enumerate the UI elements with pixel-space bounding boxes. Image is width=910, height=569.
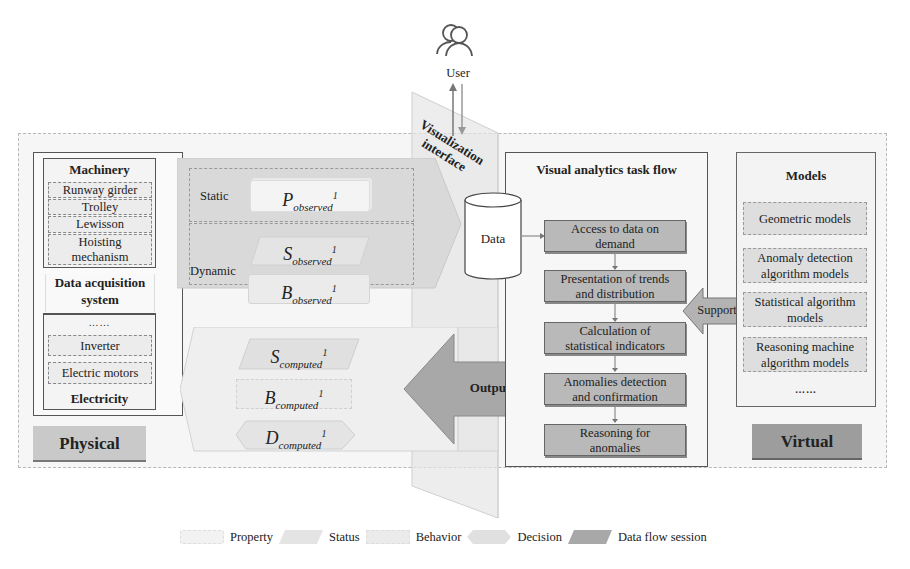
legend-label-property: Property xyxy=(230,530,273,545)
models-ellipsis: …… xyxy=(736,384,876,395)
electricity-item-electric-motors: Electric motors xyxy=(48,362,152,384)
static-label: Static xyxy=(200,189,228,204)
model-reasoning-machine: Reasoning machine algorithm models xyxy=(743,337,867,372)
step-reasoning-anomalies: Reasoning for anomalies xyxy=(544,424,686,456)
legend-swatch-behavior xyxy=(366,530,410,544)
b-computed-behavior: Bcomputed1 xyxy=(236,379,352,409)
d-computed-decision: Dcomputed1 xyxy=(236,420,356,450)
dynamic-label: Dynamic xyxy=(190,264,236,279)
model-anomaly-detection: Anomaly detection algorithm models xyxy=(743,248,867,283)
user-label: User xyxy=(438,66,478,81)
users-icon xyxy=(433,22,477,60)
legend-swatch-property xyxy=(180,530,224,544)
b-observed-behavior: Bobserved1 xyxy=(248,274,370,304)
data-acquisition-system: Data acquisition system xyxy=(45,274,155,312)
legend-swatch-data-flow xyxy=(568,530,612,544)
legend-label-decision: Decision xyxy=(517,530,561,545)
legend: Property Status Behavior Decision Data f… xyxy=(180,528,707,546)
p-observed-property: Pobserved1 xyxy=(250,180,370,212)
legend-swatch-decision xyxy=(467,530,511,544)
model-statistical-algorithm: Statistical algorithm models xyxy=(743,292,867,327)
virtual-label: Virtual xyxy=(752,424,862,460)
machinery-item-lewisson: Lewisson xyxy=(48,216,152,233)
machinery-title: Machinery xyxy=(44,162,155,178)
electricity-ellipsis: …… xyxy=(44,317,155,328)
step-calculation-indicators: Calculation of statistical indicators xyxy=(544,322,686,354)
legend-label-behavior: Behavior xyxy=(416,530,462,545)
machinery-item-runway-girder: Runway girder xyxy=(48,182,152,198)
s-observed-status: Sobserved1 xyxy=(250,236,370,266)
step-presentation-trends: Presentation of trends and distribution xyxy=(544,270,686,302)
data-store: Data xyxy=(464,192,522,280)
support-arrow: Support xyxy=(683,288,743,334)
step-access-data: Access to data on demand xyxy=(544,220,686,252)
step-anomalies-detection: Anomalies detection and confirmation xyxy=(544,373,686,405)
machinery-item-hoisting-mechanism: Hoisting mechanism xyxy=(48,234,152,265)
electricity-title: Electricity xyxy=(44,391,155,407)
model-geometric: Geometric models xyxy=(743,202,867,235)
legend-label-status: Status xyxy=(329,530,360,545)
legend-swatch-status xyxy=(279,530,323,544)
legend-label-data-flow: Data flow session xyxy=(618,530,707,545)
machinery-item-trolley: Trolley xyxy=(48,199,152,215)
user-interaction-arrows xyxy=(446,82,470,138)
electricity-item-inverter: Inverter xyxy=(48,335,152,356)
task-flow-title: Visual analytics task flow xyxy=(505,162,708,178)
physical-label: Physical xyxy=(33,426,146,462)
s-computed-status: Scomputed1 xyxy=(238,338,360,370)
data-store-label: Data xyxy=(464,231,522,247)
models-title: Models xyxy=(736,168,876,184)
